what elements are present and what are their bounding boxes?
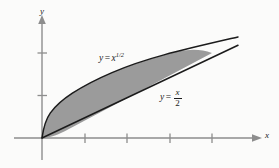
curve-x-over-2 bbox=[42, 45, 238, 138]
y-axis-arrowhead bbox=[38, 15, 46, 24]
shaded-area-region bbox=[42, 50, 212, 138]
x-axis-arrowhead bbox=[252, 134, 262, 142]
area-between-curves-chart bbox=[0, 0, 279, 168]
figure-container: y=x1/2 y=x2 x y bbox=[0, 0, 279, 168]
